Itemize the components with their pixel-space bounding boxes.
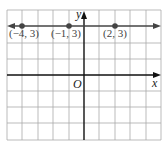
right-arrow-icon bbox=[153, 23, 161, 29]
x-axis-label: x bbox=[152, 76, 157, 91]
coordinate-plane bbox=[0, 0, 166, 147]
point-label-b: (−1, 3) bbox=[51, 27, 81, 39]
point-label-a: (−4, 3) bbox=[9, 27, 39, 39]
y-axis-arrow-icon bbox=[81, 11, 87, 19]
point-label-c: (2, 3) bbox=[103, 27, 127, 39]
origin-label: O bbox=[73, 77, 82, 92]
y-axis-label: y bbox=[76, 7, 81, 22]
